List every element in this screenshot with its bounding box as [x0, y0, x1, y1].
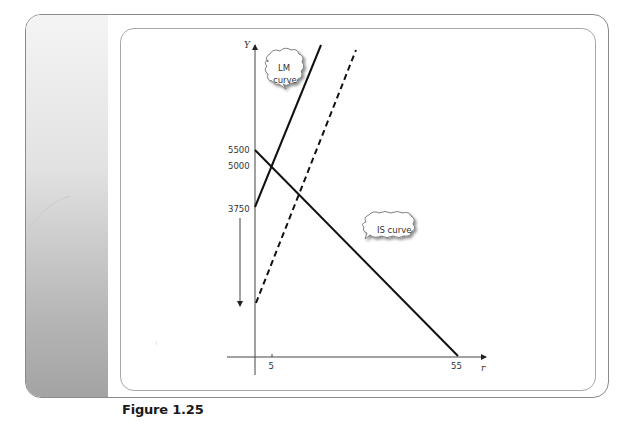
y-tick-5000: 5000: [228, 161, 250, 171]
y-tick-5500: 5500: [228, 145, 250, 155]
lm-callout-text-2: curve: [273, 75, 297, 85]
y-axis-label: Y: [244, 40, 251, 50]
lm-curve-shifted-line: [256, 50, 356, 303]
decorative-scratch: [28, 196, 70, 230]
is-lm-chart: Y r 5500 5000 3750 5 55 LM curve IS curv…: [0, 0, 635, 446]
decorative-mark: [156, 341, 157, 345]
x-axis-label: r: [481, 363, 486, 373]
x-tick-5: 5: [269, 361, 274, 371]
x-tick-55: 55: [451, 361, 462, 371]
is-curve-line: [255, 150, 458, 356]
is-callout-text: IS curve: [377, 225, 411, 235]
lm-callout-text-1: LM: [278, 63, 290, 73]
figure-caption: Figure 1.25: [122, 402, 204, 417]
y-tick-3750: 3750: [228, 204, 250, 214]
